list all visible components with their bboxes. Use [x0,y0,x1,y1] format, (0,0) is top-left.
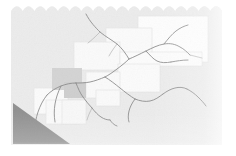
map-thumbnail[interactable] [0,0,236,156]
map-graphic[interactable] [0,0,236,156]
